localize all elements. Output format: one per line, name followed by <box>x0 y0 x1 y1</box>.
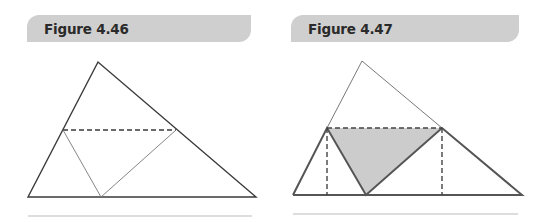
upper-left-edge <box>327 61 362 128</box>
fold-line-left <box>63 130 101 197</box>
figure-4-46-diagram <box>28 62 256 216</box>
outer-triangle <box>28 62 256 197</box>
shaded-triangle <box>327 128 442 195</box>
figure-4-47-diagram <box>293 61 522 214</box>
upper-right-edge <box>362 61 442 128</box>
fold-line-right <box>101 130 176 197</box>
figures-canvas <box>0 0 544 222</box>
